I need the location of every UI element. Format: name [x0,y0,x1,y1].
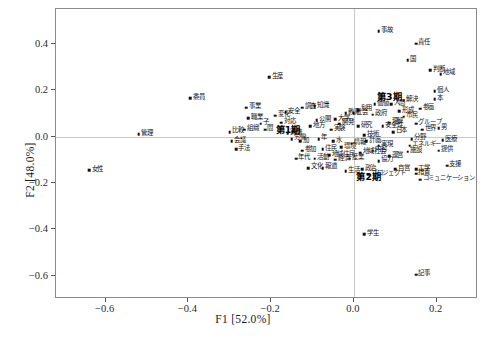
data-point [332,140,335,143]
data-point [394,168,397,171]
data-point-label: 研究 [361,122,373,128]
x-tick [187,298,188,302]
data-point [228,131,231,134]
figure: 女性管理委員生産事業職業組織比較会議手法子間変化安全対応実施労働加年代参加文化報… [0,0,486,339]
data-point [189,97,192,100]
data-point-label: 責任 [418,39,430,45]
y-tick [51,89,55,90]
data-point [390,103,393,106]
data-point-label: 医療 [445,136,457,142]
data-point [264,128,267,131]
data-point-label: 実験 [334,125,346,131]
y-tick-label: −0.4 [29,223,48,234]
data-point-label: 事業 [249,103,261,109]
data-point-label: 水 [336,137,342,143]
data-point [235,148,238,151]
data-point-label: 間 [267,125,273,131]
data-point-label: コミュニケーション [423,175,475,181]
data-point-label: グループ [418,119,441,125]
data-point-label: 加 [303,137,309,143]
data-point [313,157,316,160]
data-point [446,164,449,167]
data-point [437,127,440,130]
data-point-label: 管理 [141,130,153,136]
group-label: 第3期 [377,89,401,103]
plot-area: 女性管理委員生産事業職業組織比較会議手法子間変化安全対応実施労働加年代参加文化報… [55,8,477,298]
data-point [322,167,325,170]
data-point-label: 活動 [317,154,329,160]
y-tick [51,228,55,229]
data-point [334,159,337,162]
data-point-label: 会議 [234,137,246,143]
data-point-label: 組織 [247,125,259,131]
data-point [398,110,401,113]
data-point-label: 個人 [437,87,449,93]
data-point [245,106,248,109]
data-point-label: 比較 [232,127,244,133]
data-point-label: 政府 [375,110,387,116]
data-point [388,155,391,158]
data-point [344,170,347,173]
data-point-label: 産業 [352,154,364,160]
data-point [419,107,422,110]
data-point-label: 日本 [396,127,408,133]
data-point-label: 学生 [367,230,379,236]
data-point-label: 職業 [251,114,263,120]
data-point-label: 安全 [288,108,300,114]
data-point [363,233,366,236]
data-point [429,69,432,72]
data-point [415,168,418,171]
data-point-label: 公開 [319,116,331,122]
y-tick [51,275,55,276]
data-point [301,106,304,109]
data-point [317,138,320,141]
data-point-label: 事故 [381,27,393,33]
data-point [419,178,422,181]
data-point [291,138,294,141]
y-axis-label: F2 [48.0%] [24,142,36,197]
data-point [415,123,418,126]
data-point-label: 参加 [305,146,317,152]
data-point [348,157,351,160]
data-point [406,150,409,153]
data-point-label: 年代 [298,154,310,160]
data-point [88,169,91,172]
data-point-label: 支援 [449,161,461,167]
data-point [371,113,374,116]
data-point-label: 運営 [392,152,404,158]
data-point [415,43,418,46]
data-point-label: 本 [437,95,443,101]
data-point [301,149,304,152]
data-point [373,103,376,106]
data-point-label: 技術 [367,131,379,137]
data-point-label: 大学 [338,115,350,121]
data-point [259,123,262,126]
x-axis-label: F1 [52.0%] [0,313,486,325]
x-tick [353,298,354,302]
data-point-label: 地域社会 [363,148,386,154]
data-point [433,98,436,101]
x-tick [105,298,106,302]
data-point-label: 解決 [406,96,418,102]
data-point-label: 報道 [325,163,337,169]
data-point [284,111,287,114]
data-point [377,30,380,33]
data-point [299,140,302,143]
y-tick-label: 0.2 [35,84,48,95]
data-point [334,118,337,121]
data-point [377,160,380,163]
data-point-label: 知識 [317,102,329,108]
x-tick [270,298,271,302]
data-point [406,59,409,62]
data-point [231,140,234,143]
data-point-label: 生産 [272,73,284,79]
data-point [247,117,250,120]
data-point-label: 参画 [423,104,435,110]
data-point [315,119,318,122]
data-point [382,125,385,128]
data-point [137,133,140,136]
data-point [402,116,405,119]
data-point [340,146,343,149]
data-point-label: 委員 [193,94,205,100]
y-tick-label: −0.6 [29,269,48,280]
